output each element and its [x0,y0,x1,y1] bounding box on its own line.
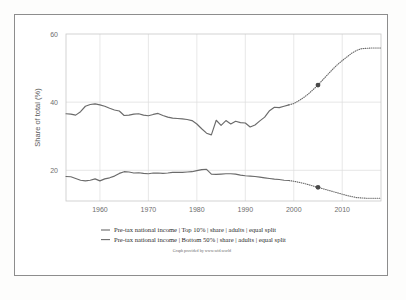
data-point-marker [316,185,321,190]
data-point-marker [316,83,321,88]
y-axis-tick-labels: 204060 [50,31,58,174]
y-tick-label: 20 [50,167,58,174]
x-axis-tick-labels: 196019701980199020002010 [92,206,350,213]
line-chart: 204060 196019701980199020002010 Share of… [15,15,389,277]
data-series [66,48,381,198]
x-tick-label: 2000 [286,206,302,213]
y-axis-title: Share of total (%) [33,88,42,147]
chart-legend: Pre-tax national income | Top 10% | shar… [101,226,286,243]
y-tick-label: 60 [50,31,58,38]
series-line-projection [289,181,381,199]
scanned-page: 204060 196019701980199020002010 Share of… [0,0,406,300]
chart-frame: 204060 196019701980199020002010 Share of… [14,14,388,276]
series-line-solid [66,169,289,181]
data-point-markers [316,83,321,190]
series-line-solid [66,104,289,135]
x-tick-label: 1960 [92,206,108,213]
x-tick-label: 1990 [238,206,254,213]
x-tick-label: 1980 [189,206,205,213]
y-tick-label: 40 [50,99,58,106]
x-tick-label: 2010 [334,206,350,213]
legend-label: Pre-tax national income | Bottom 50% | s… [114,236,286,243]
credit-text: Graph provided by www.wid.world [173,248,231,253]
x-tick-label: 1970 [141,206,157,213]
legend-label: Pre-tax national income | Top 10% | shar… [114,226,276,233]
series-line-projection [289,48,381,105]
